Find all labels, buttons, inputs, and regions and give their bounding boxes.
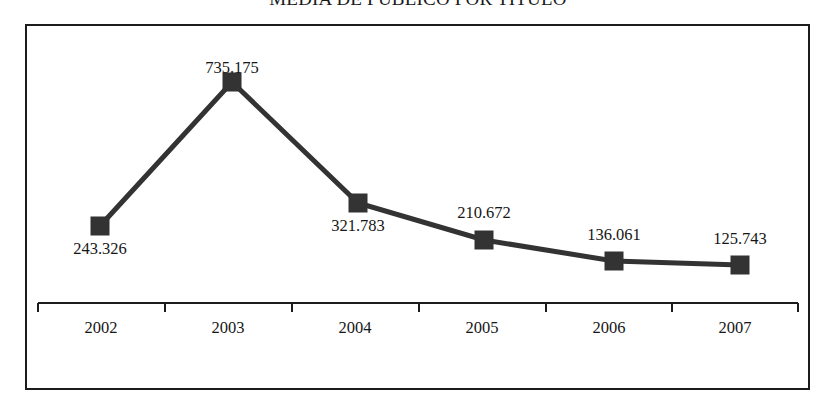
data-point-label: 210.672 (457, 203, 511, 223)
x-axis-label-2003: 2003 (212, 318, 245, 338)
data-point-label: 321.783 (331, 216, 385, 236)
chart-screenshot: MEDIA DE PÚBLICO POR TÍTULO 243.326735.1… (0, 0, 836, 411)
x-axis-label-2002: 2002 (85, 318, 118, 338)
x-axis-label-2007: 2007 (719, 318, 752, 338)
data-point-label: 735.175 (205, 58, 259, 78)
data-point-label: 136.061 (587, 225, 641, 245)
x-axis-label-2006: 2006 (593, 318, 626, 338)
x-axis-label-2005: 2005 (466, 318, 499, 338)
data-point-label: 243.326 (73, 239, 127, 259)
chart-frame-border (25, 24, 810, 390)
x-axis-label-2004: 2004 (339, 318, 372, 338)
data-point-label: 125.743 (713, 229, 767, 249)
chart-title: MEDIA DE PÚBLICO POR TÍTULO (0, 0, 836, 10)
